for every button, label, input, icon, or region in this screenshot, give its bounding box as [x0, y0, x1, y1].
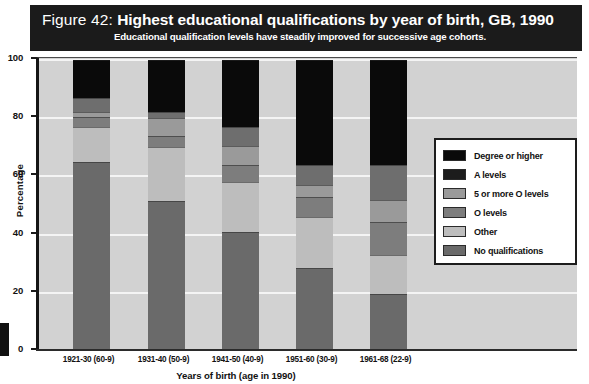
- bar-segment: [73, 60, 110, 98]
- bar-segment: [222, 232, 259, 351]
- y-tick-label-20: 20: [0, 285, 23, 296]
- legend-item-6[interactable]: No qualifications: [436, 241, 575, 260]
- x-axis-line: [36, 349, 577, 351]
- bar-segment: [370, 255, 407, 294]
- bar-segment: [148, 201, 185, 351]
- bar-segment: [222, 182, 259, 231]
- title-line: Figure 42: Highest educational qualifica…: [42, 11, 554, 29]
- chart-legend: Degree or higherA levels5 or more O leve…: [434, 138, 577, 265]
- bar-segment: [73, 98, 110, 113]
- bar-segment: [370, 165, 407, 200]
- y-tick-mark-100: [31, 57, 36, 59]
- legend-item-3[interactable]: 5 or more O levels: [436, 184, 575, 203]
- bar-segment: [296, 197, 333, 217]
- legend-item-5[interactable]: Other: [436, 222, 575, 241]
- bar-4: [296, 57, 333, 350]
- figure-subtitle: Educational qualification levels have st…: [114, 31, 486, 42]
- legend-swatch-icon: [443, 150, 466, 161]
- bar-segment: [296, 165, 333, 185]
- legend-swatch-icon: [443, 207, 466, 218]
- bar-2: [148, 57, 185, 350]
- legend-item-2[interactable]: A levels: [436, 165, 575, 184]
- bar-segment: [222, 165, 259, 182]
- legend-item-label: Other: [474, 227, 497, 237]
- bar-segment: [148, 118, 185, 135]
- figure-title-banner: Figure 42: Highest educational qualifica…: [30, 5, 582, 51]
- bar-segment: [370, 294, 407, 351]
- bar-segment: [148, 112, 185, 118]
- bar-segment: [296, 185, 333, 197]
- figure-number: Figure 42:: [42, 11, 113, 28]
- y-tick-mark-80: [31, 115, 36, 117]
- legend-item-label: 5 or more O levels: [474, 189, 548, 199]
- y-tick-label-100: 100: [0, 52, 23, 63]
- bar-segment: [148, 60, 185, 112]
- bar-segment: [370, 200, 407, 222]
- bar-segment: [73, 127, 110, 162]
- y-axis-label: Percentage: [14, 151, 25, 231]
- bar-segment: [370, 222, 407, 255]
- legend-item-label: Degree or higher: [474, 151, 543, 161]
- legend-swatch-icon: [443, 226, 466, 237]
- legend-item-label: A levels: [474, 170, 506, 180]
- legend-swatch-icon: [443, 169, 466, 180]
- bar-segment: [73, 162, 110, 351]
- bar-segment: [148, 136, 185, 148]
- bar-segment: [370, 60, 407, 165]
- y-tick-label-0: 0: [0, 343, 23, 354]
- bar-segment: [148, 147, 185, 201]
- bar-segment: [296, 217, 333, 268]
- y-tick-label-80: 80: [0, 110, 23, 121]
- page-title: Highest educational qualifications by ye…: [117, 11, 554, 28]
- x-tick-label-5: 1961-68 (22-9): [331, 355, 441, 364]
- legend-item-4[interactable]: O levels: [436, 203, 575, 222]
- y-tick-mark-20: [31, 290, 36, 292]
- bar-1: [73, 57, 110, 350]
- bar-segment: [222, 146, 259, 165]
- x-axis-label: Years of birth (age in 1990): [36, 370, 436, 381]
- bar-segment: [222, 127, 259, 146]
- legend-swatch-icon: [443, 188, 466, 199]
- bar-5: [370, 57, 407, 350]
- bar-segment: [73, 112, 110, 116]
- bar-segment: [73, 117, 110, 127]
- legend-item-label: O levels: [474, 208, 507, 218]
- y-tick-mark-40: [31, 232, 36, 234]
- bar-segment: [296, 60, 333, 165]
- bar-segment: [296, 268, 333, 351]
- legend-item-label: No qualifications: [474, 246, 543, 256]
- y-tick-mark-60: [31, 173, 36, 175]
- bar-segment: [222, 60, 259, 127]
- legend-swatch-icon: [443, 245, 466, 256]
- legend-item-1[interactable]: Degree or higher: [436, 146, 575, 165]
- bar-3: [222, 57, 259, 350]
- y-tick-mark-0: [31, 348, 36, 350]
